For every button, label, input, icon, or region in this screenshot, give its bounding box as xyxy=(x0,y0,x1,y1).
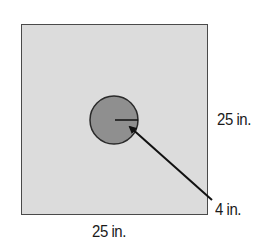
side-length-label: 25 in. xyxy=(217,110,251,130)
bottom-length-label: 25 in. xyxy=(92,222,126,242)
radius-pointer-arrow xyxy=(130,127,212,200)
radius-label: 4 in. xyxy=(215,200,241,220)
